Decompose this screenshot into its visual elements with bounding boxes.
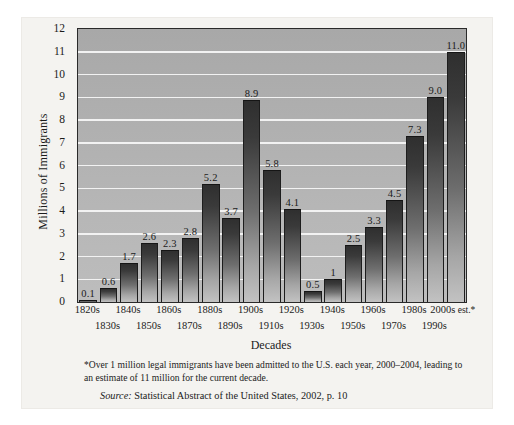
plot-area: 0.10.61.72.62.32.85.23.78.95.84.10.512.5… — [77, 28, 467, 303]
x-tick-label: 1830s — [95, 320, 120, 331]
x-tick-label: 1880s — [197, 304, 222, 315]
figure-canvas: 0123456789101112 Millions of Immigrants … — [0, 0, 514, 425]
y-axis-title: Millions of Immigrants — [36, 87, 51, 257]
source-label: Source: — [100, 390, 132, 401]
bar — [304, 291, 322, 302]
y-tick-label: 6 — [59, 159, 65, 171]
x-tick-label: 1900s — [238, 304, 263, 315]
x-tick-label: 1930s — [299, 320, 324, 331]
x-tick-estimate-note: est.* — [455, 305, 475, 315]
x-tick-label: 1990s — [422, 320, 447, 331]
bar — [263, 170, 281, 302]
bar — [182, 238, 200, 302]
bar — [141, 243, 159, 302]
chart-card: 0123456789101112 Millions of Immigrants … — [22, 18, 492, 408]
x-tick-label: 1960s — [361, 304, 386, 315]
bar — [324, 279, 342, 302]
chart-footnote: *Over 1 million legal immigrants have be… — [84, 358, 464, 384]
x-tick-label: 1820s — [75, 304, 100, 315]
y-tick-label: 2 — [59, 250, 65, 262]
y-tick-label: 10 — [54, 68, 66, 80]
bar — [243, 100, 261, 302]
chart-source: Source: Statistical Abstract of the Unit… — [100, 390, 470, 401]
x-tick-label: 1970s — [381, 320, 406, 331]
bar — [345, 245, 363, 302]
bar — [222, 218, 240, 302]
y-tick-label: 7 — [59, 136, 65, 148]
y-tick-label: 9 — [59, 90, 65, 102]
x-tick-label: 1890s — [218, 320, 243, 331]
bar — [447, 52, 465, 302]
y-tick-label: 11 — [54, 45, 65, 57]
x-tick-label: 1980s — [401, 304, 426, 315]
bar — [386, 200, 404, 302]
x-tick-label: 1840s — [116, 304, 141, 315]
y-tick-label: 4 — [59, 204, 65, 216]
x-tick-label: 1850s — [136, 320, 161, 331]
x-tick-label: 1920s — [279, 304, 304, 315]
bar-series: 0.10.61.72.62.32.85.23.78.95.84.10.512.5… — [78, 29, 466, 302]
bar — [427, 97, 445, 302]
y-tick-label: 8 — [59, 113, 65, 125]
x-axis-title: Decades — [77, 338, 465, 353]
x-tick-label: 1940s — [320, 304, 345, 315]
bar — [161, 250, 179, 302]
bar-value-label: 11.0 — [435, 40, 467, 51]
bar-value-label: 4.1 — [272, 197, 313, 208]
y-tick-label: 12 — [54, 22, 66, 34]
bar — [365, 227, 383, 302]
y-tick-label: 0 — [59, 295, 65, 307]
y-tick-label: 3 — [59, 227, 65, 239]
bar — [79, 300, 97, 302]
x-tick-label: 1910s — [258, 320, 283, 331]
bar-value-label: 5.8 — [252, 158, 293, 169]
y-tick-label: 5 — [59, 181, 65, 193]
bar — [120, 263, 138, 302]
x-tick-label: 1860s — [156, 304, 181, 315]
bar-value-label: 5.2 — [190, 172, 231, 183]
bar — [202, 184, 220, 302]
x-axis-ticks: 1820s1830s1840s1850s1860s1870s1880s1890s… — [77, 304, 465, 340]
x-tick-label: 2000s est.* — [430, 304, 475, 315]
x-tick-label: 1870s — [177, 320, 202, 331]
source-text: Statistical Abstract of the United State… — [134, 390, 347, 401]
bar — [100, 288, 118, 302]
x-tick-label: 1950s — [340, 320, 365, 331]
y-tick-label: 1 — [59, 272, 65, 284]
bar — [406, 136, 424, 302]
bar-value-label: 8.9 — [231, 88, 272, 99]
